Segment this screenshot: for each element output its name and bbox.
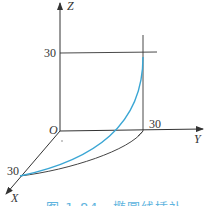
y-axis [60, 129, 203, 131]
figure-caption: 图 1-84 椭圆线插补 [46, 197, 183, 206]
x-tick-label: 30 [7, 165, 19, 177]
spatial-arc-curve [20, 57, 143, 176]
projected-arc-curve [20, 131, 143, 176]
z-tick-label: 30 [44, 47, 56, 59]
y-axis-label: Y [194, 133, 201, 145]
origin-label: O [49, 124, 58, 136]
x-axis [6, 131, 60, 194]
z-axis-label: Z [67, 0, 74, 12]
diagram-canvas [0, 0, 208, 206]
z-30-guide-line [60, 52, 157, 53]
origin-dot [61, 140, 62, 141]
x-axis-label: X [11, 192, 18, 204]
y-tick-label: 30 [149, 118, 161, 130]
